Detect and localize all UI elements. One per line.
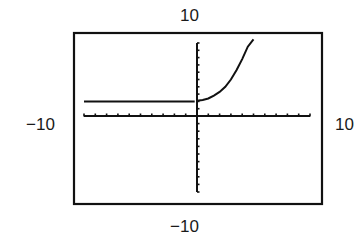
- function-curve: [84, 39, 254, 101]
- calculator-graph: [0, 0, 360, 249]
- axes: [84, 43, 310, 192]
